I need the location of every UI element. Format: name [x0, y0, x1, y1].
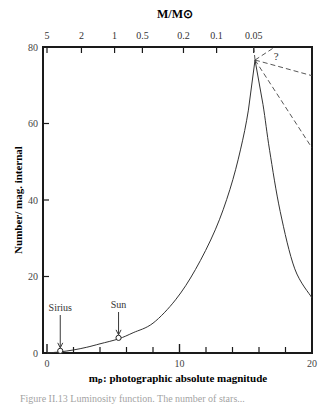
star-marker — [116, 335, 121, 340]
x-tick-label: 0 — [45, 358, 50, 369]
plot-frame — [43, 47, 312, 353]
y-tick-label: 80 — [28, 42, 38, 53]
top-axis-ticks: 5210.50.20.10.05 — [45, 30, 263, 53]
top-tick-label: 5 — [45, 30, 50, 41]
y-tick-label: 60 — [28, 118, 38, 129]
top-tick-label: 1 — [112, 30, 117, 41]
x-tick-label: 10 — [175, 358, 185, 369]
x-axis-label: mₚ: photographic absolute magnitude — [89, 372, 267, 384]
y-tick-label: 20 — [28, 271, 38, 282]
series-dashed-line — [255, 47, 275, 60]
annotations: SiriusSun? — [49, 50, 279, 354]
y-tick-label: 0 — [33, 348, 38, 359]
question-mark-annotation: ? — [274, 50, 279, 62]
top-tick-label: 0.05 — [245, 30, 263, 41]
series-line — [47, 60, 312, 353]
data-series — [47, 47, 312, 353]
top-tick-label: 0.2 — [177, 30, 190, 41]
figure-caption: Figure II.13 Luminosity function. The nu… — [20, 393, 336, 404]
y-tick-label: 40 — [28, 195, 38, 206]
star-marker — [58, 348, 63, 353]
star-label: Sirius — [49, 302, 72, 313]
top-tick-label: 2 — [79, 30, 84, 41]
top-tick-label: 0.1 — [210, 30, 223, 41]
top-tick-label: 0.5 — [136, 30, 149, 41]
y-axis-label: Number/ mag. internal — [12, 146, 24, 254]
x-tick-label: 20 — [307, 358, 317, 369]
y-axis-ticks: 020406080 — [28, 42, 49, 359]
series-dashed-line — [254, 47, 255, 60]
star-label: Sun — [111, 299, 127, 310]
luminosity-function-chart: 5210.50.20.10.05 M/M⊙ 020406080 01020 Si… — [0, 0, 336, 405]
series-dashed-line — [255, 60, 312, 76]
top-axis-label: M/M⊙ — [157, 7, 193, 21]
